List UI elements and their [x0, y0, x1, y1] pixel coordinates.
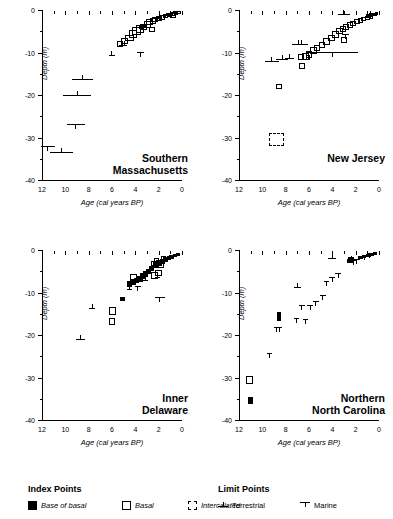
limit-stem [322, 296, 323, 300]
data-marker-marine-limit [277, 327, 282, 335]
data-marker-terrestrial-limit [122, 41, 127, 49]
y-tick-label: -40 [202, 177, 232, 184]
data-marker-dashed-square [276, 84, 282, 89]
limit-stem [269, 354, 270, 358]
x-tick-label: 4 [127, 186, 143, 193]
x-tick [262, 11, 263, 15]
limit-bar [72, 79, 93, 80]
limit-bar [277, 327, 282, 328]
x-tick-label: 4 [127, 426, 143, 433]
legend-item-filled-square: Base of basal [28, 500, 86, 510]
y-axis-line [239, 10, 240, 180]
y-tick-label: -40 [5, 417, 35, 424]
x-tick [124, 11, 125, 14]
x-tick-label: 6 [301, 186, 317, 193]
limit-stem [305, 320, 306, 324]
data-marker-marine-limit [367, 253, 373, 261]
data-marker-filled-square [176, 253, 180, 256]
x-tick-label: 2 [348, 186, 364, 193]
limit-bar [76, 339, 85, 340]
data-marker-marine-limit [354, 259, 360, 267]
data-marker-marine-limit [335, 273, 341, 281]
limit-bar [313, 301, 319, 302]
limit-bar [267, 353, 272, 354]
data-marker-terrestrial-limit [338, 10, 350, 18]
data-marker-dashed-square [298, 54, 304, 60]
x-tick [124, 251, 125, 254]
y-tick [38, 95, 42, 96]
x-tick [182, 251, 183, 255]
y-axis-line [239, 250, 240, 420]
limit-bar [342, 34, 349, 35]
chart-panel-4: 0-10-20-30-40024681012Depth (m)Age (cal … [197, 240, 393, 468]
x-tick [251, 11, 252, 14]
x-tick-label: 6 [104, 186, 120, 193]
limit-bar [320, 295, 326, 296]
panel-title-line: Massachusetts [113, 164, 188, 176]
y-tick [40, 116, 43, 117]
x-tick [286, 251, 287, 255]
y-tick-label: -20 [5, 92, 35, 99]
x-axis-line [42, 420, 182, 421]
limit-stem [315, 302, 316, 306]
x-tick [112, 251, 113, 255]
limit-bar [122, 45, 127, 46]
y-tick-label: -20 [202, 92, 232, 99]
limit-bar [143, 280, 148, 281]
x-tick [159, 251, 160, 255]
data-marker-filled-square [375, 12, 379, 15]
x-tick [274, 251, 275, 254]
x-tick-label: 8 [278, 426, 294, 433]
limit-bar [303, 319, 308, 320]
limit-stem [369, 254, 370, 258]
limit-bar [218, 506, 228, 507]
y-tick [38, 138, 42, 139]
y-tick-label: -30 [5, 374, 35, 381]
x-tick [42, 251, 43, 255]
limit-bar [137, 52, 144, 53]
y-tick [40, 356, 43, 357]
x-tick [89, 11, 90, 15]
legend-item-label: Terrestrial [232, 501, 265, 510]
x-tick [100, 251, 101, 254]
x-tick [286, 11, 287, 15]
data-marker-terrestrial-limit [296, 40, 308, 48]
limit-bar [135, 286, 141, 287]
data-marker-terrestrial-limit [72, 75, 93, 83]
x-tick-label: 8 [81, 186, 97, 193]
y-tick-label: -10 [5, 289, 35, 296]
data-marker-dashed-square [170, 13, 176, 18]
x-tick-label: 2 [151, 426, 167, 433]
x-tick [54, 251, 55, 254]
panel-title-line: North Carolina [312, 404, 385, 416]
y-tick [38, 180, 42, 181]
limit-bar [155, 297, 166, 298]
limit-stem [356, 260, 357, 264]
y-tick-label: -20 [202, 332, 232, 339]
y-tick-label: 0 [202, 7, 232, 14]
data-marker-marine-limit [299, 305, 305, 313]
data-marker-terrestrial-limit [328, 254, 336, 262]
x-tick [297, 11, 298, 14]
data-marker-terrestrial-limit [285, 54, 294, 62]
filled-square-icon [28, 501, 37, 510]
figure-root: 0-10-20-30-40024681012Depth (m)Age (cal … [0, 0, 393, 519]
data-marker-terrestrial-limit [76, 335, 85, 343]
limit-stem [279, 328, 280, 332]
y-tick [237, 159, 240, 160]
limit-stem [364, 256, 365, 260]
y-tick-label: 0 [5, 7, 35, 14]
y-tick-label: -30 [202, 374, 232, 381]
data-marker-dashed-square [269, 133, 284, 146]
y-tick [40, 31, 43, 32]
chart-panel-2: 0-10-20-30-40024681012Depth (m)Age (cal … [197, 0, 393, 228]
panel-title-line: Inner [142, 392, 188, 404]
limit-bar [367, 253, 373, 254]
x-tick-label: 4 [324, 186, 340, 193]
data-marker-marine-limit [41, 146, 55, 154]
data-marker-terrestrial-limit [127, 285, 133, 293]
y-tick-label: -10 [202, 49, 232, 56]
x-tick [77, 11, 78, 14]
x-axis-title: Age (cal years BP) [42, 198, 182, 207]
data-marker-marine-limit [135, 286, 141, 294]
